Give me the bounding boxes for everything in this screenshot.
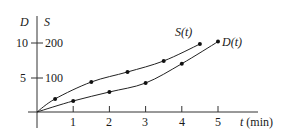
x-tick-label-4: 4	[179, 115, 185, 129]
series-label-D: D(t)	[221, 35, 242, 49]
x-tick-label-1: 1	[70, 115, 76, 129]
data-point	[144, 81, 148, 85]
series-D-line	[37, 42, 218, 112]
data-point	[71, 99, 75, 103]
chart: D S 10 200 5 100 1 2 3 4 5 t (min) S(t) …	[0, 0, 281, 138]
x-tick-label-2: 2	[106, 115, 112, 129]
data-point	[126, 70, 130, 74]
data-point	[198, 42, 202, 46]
y-tick-label-200: 200	[45, 36, 63, 50]
y-label-D: D	[19, 15, 29, 29]
data-points	[53, 40, 220, 103]
y-tick-label-10: 10	[16, 36, 28, 50]
data-point	[89, 80, 93, 84]
x-tick-label-3: 3	[142, 115, 148, 129]
data-point	[216, 40, 220, 44]
y-label-S: S	[44, 15, 50, 29]
x-axis-label: t (min)	[240, 115, 273, 129]
y-tick-label-100: 100	[45, 71, 63, 85]
y-tick-label-5: 5	[20, 71, 26, 85]
x-ticks	[73, 106, 218, 112]
data-point	[107, 90, 111, 94]
data-point	[162, 59, 166, 63]
x-tick-label-5: 5	[215, 115, 221, 129]
data-point	[53, 97, 57, 101]
data-point	[180, 62, 184, 66]
series-label-S: S(t)	[175, 25, 192, 39]
